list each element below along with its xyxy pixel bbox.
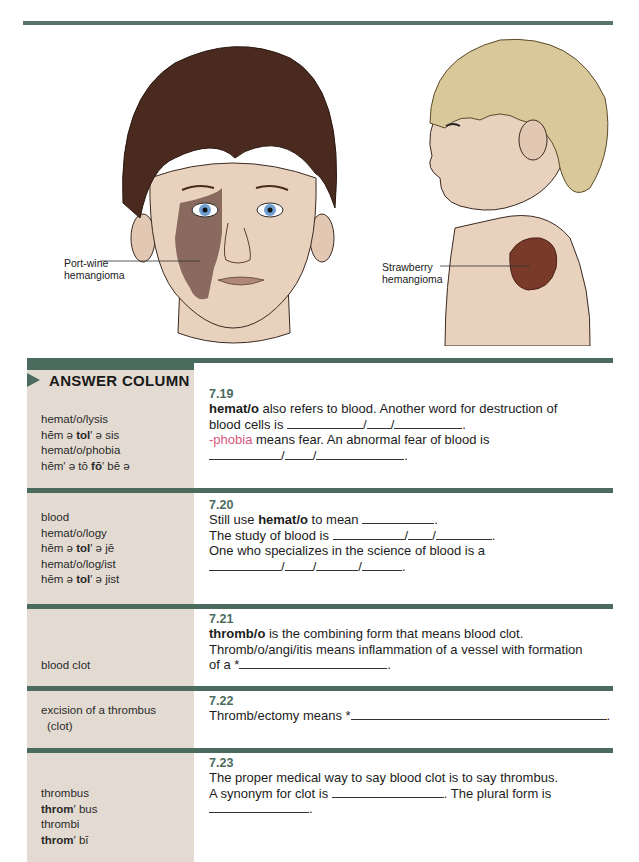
child-front-view <box>100 47 337 343</box>
answer-item: blood clot <box>41 658 90 674</box>
frame-content: 7.20 Still use hemat/o to mean . The stu… <box>209 498 613 574</box>
answer-blank[interactable] <box>316 560 358 571</box>
answer-blank[interactable] <box>436 529 492 540</box>
answer-item: hemat/o/log/ist <box>41 557 119 573</box>
answer-item: hēm ə tol′ ə jē <box>41 541 119 557</box>
answer-item: excision of a thrombus <box>41 703 156 719</box>
label-line: Port-wine <box>64 257 125 269</box>
answer-blank[interactable] <box>209 449 281 460</box>
label-line: hemangioma <box>382 273 443 285</box>
section-divider <box>27 488 613 493</box>
frame-7-21: blood clot 7.21 thromb/o is the combinin… <box>27 604 613 686</box>
strawberry-hemangioma-label: Strawberry hemangioma <box>382 261 443 285</box>
frame-7-20: blood hemat/o/logy hēm ə tol′ ə jē hemat… <box>27 488 613 604</box>
frame-text: thromb/o is the combining form that mean… <box>209 626 613 673</box>
answer-blank[interactable] <box>285 560 313 571</box>
frame-number: 7.20 <box>209 498 613 512</box>
frame-content: 7.21 thromb/o is the combining form that… <box>209 612 613 673</box>
answer-column <box>27 604 194 686</box>
answer-list: blood clot <box>41 658 90 674</box>
answer-blank[interactable] <box>351 709 607 720</box>
label-line: hemangioma <box>64 269 125 281</box>
answer-item: hĕm′ ə tō fō′ bē ə <box>41 459 130 475</box>
frame-number: 7.21 <box>209 612 613 626</box>
answer-blank[interactable] <box>285 449 313 460</box>
answer-item: (clot) <box>41 719 156 735</box>
section-divider <box>27 748 613 753</box>
answer-blank[interactable] <box>287 418 363 429</box>
frame-content: 7.23 The proper medical way to say blood… <box>209 756 613 817</box>
answer-blank[interactable] <box>209 560 281 571</box>
answer-blank[interactable] <box>367 418 391 429</box>
answer-list: hemat/o/lysis hĕm ə tol′ ə sis hemat/o/p… <box>41 412 130 474</box>
answer-blank[interactable] <box>362 513 434 524</box>
section-divider <box>27 604 613 609</box>
answer-column-header-bar <box>27 358 194 370</box>
answer-blank[interactable] <box>394 418 462 429</box>
answer-item: thrombi <box>41 817 98 833</box>
answer-blank[interactable] <box>239 658 387 669</box>
answer-list: excision of a thrombus (clot) <box>41 703 156 734</box>
answer-item: blood <box>41 510 119 526</box>
answer-item: hemat/o/logy <box>41 526 119 542</box>
frame-number: 7.19 <box>209 387 613 401</box>
frame-text: Still use hemat/o to mean . The study of… <box>209 512 613 574</box>
answer-blank[interactable] <box>333 529 405 540</box>
frame-text: The proper medical way to say blood clot… <box>209 770 613 817</box>
answer-item: throm′ bī <box>41 833 98 849</box>
frame-content: 7.22 Thromb/ectomy means *. <box>209 694 613 724</box>
frame-number: 7.23 <box>209 756 613 770</box>
answer-blank[interactable] <box>209 802 309 813</box>
hemangioma-illustration-art <box>0 28 639 346</box>
section-divider <box>27 686 613 691</box>
frame-7-22: excision of a thrombus (clot) 7.22 Throm… <box>27 686 613 748</box>
answer-item: hēm ə tol′ ə jist <box>41 572 119 588</box>
answer-list: blood hemat/o/logy hēm ə tol′ ə jē hemat… <box>41 510 119 588</box>
frame-text: Thromb/ectomy means *. <box>209 708 613 724</box>
answer-blank[interactable] <box>332 787 444 798</box>
label-line: Strawberry <box>382 261 443 273</box>
answer-list: thrombus throm′ bus thrombi throm′ bī <box>41 786 98 848</box>
frame-7-23: thrombus throm′ bus thrombi throm′ bī 7.… <box>27 748 613 862</box>
answer-item: hemat/o/phobia <box>41 443 130 459</box>
answer-item: hemat/o/lysis <box>41 412 130 428</box>
frame-7-19: ANSWER COLUMN hemat/o/lysis hĕm ə tol′ ə… <box>27 358 613 488</box>
frame-number: 7.22 <box>209 694 613 708</box>
answer-column-title: ANSWER COLUMN <box>49 372 190 389</box>
port-wine-hemangioma-label: Port-wine hemangioma <box>64 257 125 281</box>
arrow-right-icon <box>27 373 40 387</box>
answer-item: thrombus <box>41 786 98 802</box>
answer-blank[interactable] <box>362 560 402 571</box>
answer-blank[interactable] <box>316 449 404 460</box>
answer-item: hĕm ə tol′ ə sis <box>41 428 130 444</box>
hemangioma-illustration: Port-wine hemangioma Strawberry hemangio… <box>0 28 639 346</box>
child-side-view <box>430 39 608 346</box>
answer-item: throm′ bus <box>41 802 98 818</box>
frame-content: 7.19 hemat/o also refers to blood. Anoth… <box>209 387 613 463</box>
frame-text: hemat/o also refers to blood. Another wo… <box>209 401 613 463</box>
top-rule <box>23 21 613 25</box>
answer-blank[interactable] <box>408 529 432 540</box>
